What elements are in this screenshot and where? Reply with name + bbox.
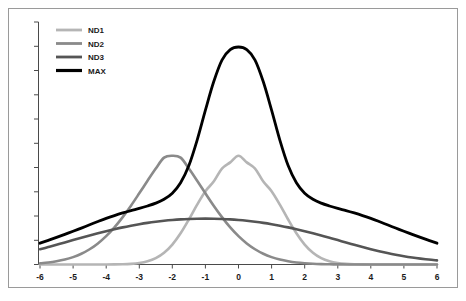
- chart-plot-area: -6-5-4-3-2-10123456 ND1ND2ND3MAX: [0, 0, 466, 301]
- x-axis-tick-label: 4: [368, 272, 373, 282]
- x-axis-tick-label: 3: [335, 272, 340, 282]
- x-axis-tick-label: -2: [169, 272, 177, 282]
- y-axis-ticks: [34, 22, 39, 265]
- x-axis-tick-label: -1: [202, 272, 210, 282]
- x-axis-tick-label: -4: [102, 272, 110, 282]
- x-axis-tick-label: 2: [302, 272, 307, 282]
- series-line-max: [40, 47, 437, 243]
- x-axis-tick-label: 0: [236, 272, 241, 282]
- x-axis-tick-label: -3: [136, 272, 144, 282]
- series-line-nd2: [40, 156, 437, 265]
- x-axis-tick-label: -5: [69, 272, 77, 282]
- x-axis-tick-label: 1: [269, 272, 274, 282]
- legend-label-nd2: ND2: [88, 40, 105, 49]
- legend-label-max: MAX: [88, 67, 106, 76]
- x-axis-tick-label: 5: [402, 272, 407, 282]
- x-axis-tick-label: 6: [435, 272, 440, 282]
- legend-label-nd1: ND1: [88, 26, 105, 35]
- chart-figure: -6-5-4-3-2-10123456 ND1ND2ND3MAX: [0, 0, 466, 301]
- series-line-nd3: [40, 219, 437, 261]
- x-axis-tick-labels: -6-5-4-3-2-10123456: [36, 272, 439, 282]
- series-line-nd1: [40, 156, 437, 265]
- chart-legend: ND1ND2ND3MAX: [56, 26, 106, 76]
- legend-label-nd3: ND3: [88, 53, 105, 62]
- chart-series-group: [40, 47, 437, 265]
- x-axis-tick-label: -6: [36, 272, 44, 282]
